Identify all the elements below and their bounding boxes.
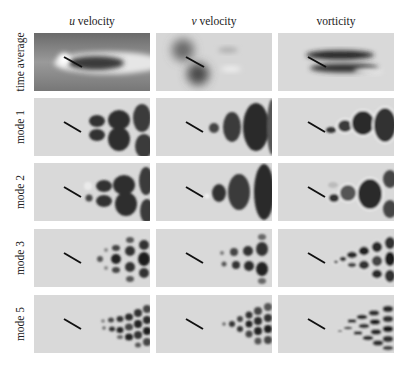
panel-mode-3-vorticity (278, 229, 394, 287)
row-label-time-average: time average (10, 33, 30, 91)
row-label-text: mode 5 (14, 307, 26, 341)
row-label-mode-3: mode 3 (10, 229, 30, 287)
label-text: vorticity (317, 15, 356, 27)
row-label-text: mode 3 (14, 241, 26, 275)
row-label-mode-1: mode 1 (10, 98, 30, 156)
panel-mode-3-v-velocity (156, 229, 272, 287)
column-label-vorticity: vorticity (278, 15, 394, 27)
panel-mode-3-u-velocity (34, 229, 150, 287)
panel-mode-1-u-velocity (34, 98, 150, 156)
row-label-text: time average (14, 32, 26, 91)
row-label-mode-5: mode 5 (10, 295, 30, 353)
label-text: velocity (75, 15, 115, 27)
panel-time-average-v-velocity (156, 33, 272, 91)
label-text: velocity (197, 15, 237, 27)
panel-mode-1-v-velocity (156, 98, 272, 156)
panel-mode-2-u-velocity (34, 163, 150, 221)
panel-mode-2-v-velocity (156, 163, 272, 221)
panel-mode-5-v-velocity (156, 295, 272, 353)
row-label-text: mode 2 (14, 175, 26, 209)
column-label-v-velocity: v velocity (156, 15, 272, 27)
panel-mode-1-vorticity (278, 98, 394, 156)
panel-mode-5-u-velocity (34, 295, 150, 353)
column-label-u-velocity: u velocity (34, 15, 150, 27)
panel-time-average-u-velocity (34, 33, 150, 91)
panel-mode-5-vorticity (278, 295, 394, 353)
row-label-text: mode 1 (14, 110, 26, 144)
panel-time-average-vorticity (278, 33, 394, 91)
row-label-mode-2: mode 2 (10, 163, 30, 221)
panel-mode-2-vorticity (278, 163, 394, 221)
